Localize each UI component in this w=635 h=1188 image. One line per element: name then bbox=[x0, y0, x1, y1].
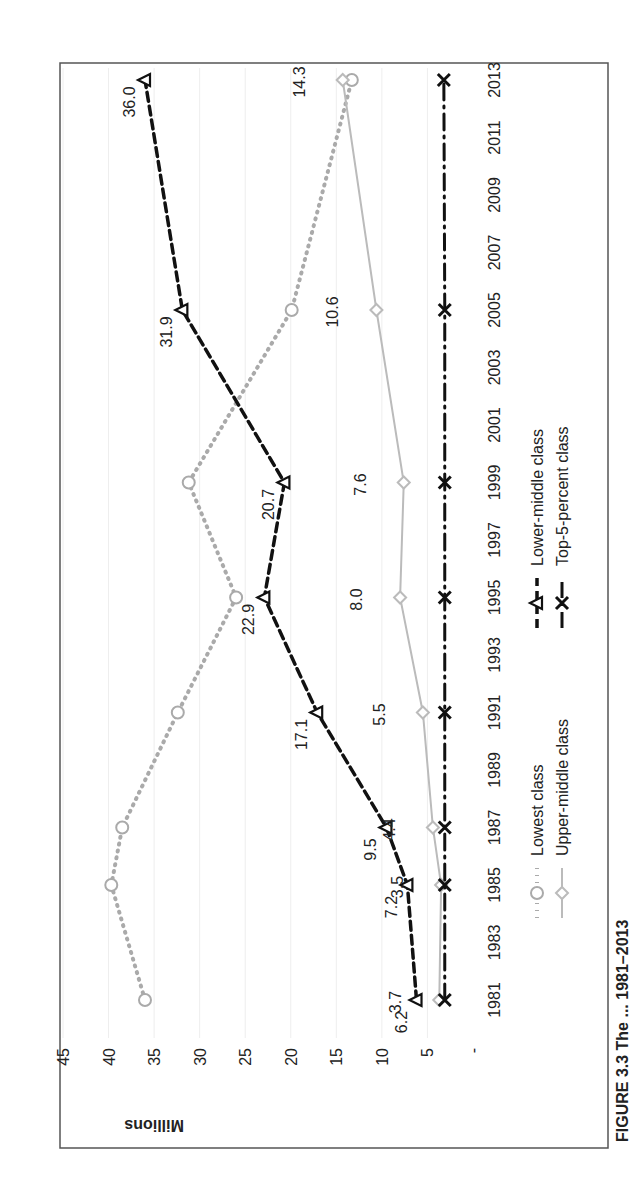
x-tick-label: 2003 bbox=[486, 350, 503, 386]
circle-marker bbox=[105, 879, 117, 891]
x-tick-label: 1999 bbox=[486, 465, 503, 501]
x-tick-label: 1993 bbox=[486, 637, 503, 673]
y-tick-label: 15 bbox=[328, 1048, 345, 1066]
y-tick-label: 45 bbox=[55, 1048, 72, 1066]
x-tick-label: 1989 bbox=[486, 752, 503, 788]
legend-label: Lower-middle class bbox=[529, 429, 546, 566]
y-tick-label: 20 bbox=[283, 1048, 300, 1066]
data-label: 14.3 bbox=[291, 66, 308, 97]
x-tick-label: 2011 bbox=[486, 120, 503, 155]
x-tick-label: 1987 bbox=[486, 810, 503, 846]
x-tick-label: 2005 bbox=[486, 292, 503, 328]
data-label: 8.0 bbox=[348, 588, 365, 610]
data-label: 31.9 bbox=[158, 316, 175, 347]
data-label: 20.7 bbox=[260, 489, 277, 520]
x-tick-label: 2009 bbox=[486, 177, 503, 213]
figure-caption: FIGURE 3.3 The ... 1981–2013 bbox=[614, 920, 631, 1142]
data-label: 17.1 bbox=[293, 719, 310, 750]
y-tick-label: 25 bbox=[237, 1048, 254, 1066]
circle-marker bbox=[116, 822, 128, 834]
circle-marker bbox=[286, 304, 298, 316]
data-label: 7.2 bbox=[383, 896, 400, 918]
data-label: 4.4 bbox=[381, 818, 398, 840]
circle-marker bbox=[230, 592, 242, 604]
data-label: 3.5 bbox=[389, 876, 406, 898]
y-tick-label: 5 bbox=[419, 1048, 436, 1057]
data-label: 10.6 bbox=[324, 296, 341, 327]
legend-label: Top-5-percent class bbox=[554, 426, 571, 566]
line-chart: -51015202530354045 Millions 198119831985… bbox=[0, 0, 635, 1188]
circle-marker bbox=[172, 707, 184, 719]
circle-marker bbox=[139, 994, 151, 1006]
data-label: 9.5 bbox=[362, 838, 379, 860]
legend-item: Lowest class bbox=[529, 764, 546, 918]
data-label: 5.5 bbox=[371, 703, 388, 725]
x-tick-label: 1995 bbox=[486, 580, 503, 616]
data-label: 7.6 bbox=[352, 473, 369, 495]
y-tick-label: - bbox=[465, 1048, 482, 1053]
x-axis: 1981198319851987198919911993199519971999… bbox=[486, 62, 503, 1018]
x-tick-label: 1997 bbox=[486, 522, 503, 558]
x-tick-label: 2007 bbox=[486, 235, 503, 271]
data-label: 3.7 bbox=[387, 991, 404, 1013]
circle-marker bbox=[183, 477, 195, 489]
legend-label: Lowest class bbox=[529, 764, 546, 856]
y-tick-label: 10 bbox=[374, 1048, 391, 1066]
x-tick-label: 1983 bbox=[486, 925, 503, 961]
legend-item: Top-5-percent class bbox=[554, 426, 571, 628]
data-label: 36.0 bbox=[121, 86, 138, 117]
x-tick-label: 1985 bbox=[486, 867, 503, 903]
y-axis-title: Millions bbox=[124, 1117, 184, 1134]
circle-marker bbox=[531, 887, 543, 899]
x-tick-label: 2013 bbox=[486, 62, 503, 98]
data-label: 22.9 bbox=[240, 604, 257, 635]
data-label: 6.2 bbox=[393, 1011, 410, 1033]
rotated-chart-figure: -51015202530354045 Millions 198119831985… bbox=[0, 0, 635, 1188]
x-tick-label: 1981 bbox=[486, 982, 503, 1018]
x-tick-label: 2001 bbox=[486, 407, 503, 443]
x-tick-label: 1991 bbox=[486, 695, 503, 731]
y-tick-label: 35 bbox=[146, 1048, 163, 1066]
y-tick-label: 30 bbox=[192, 1048, 209, 1066]
y-tick-label: 40 bbox=[101, 1048, 118, 1066]
legend-label: Upper-middle class bbox=[554, 719, 571, 856]
